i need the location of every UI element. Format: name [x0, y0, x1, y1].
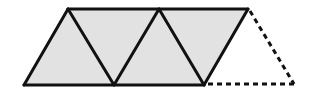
triangle-strip-diagram [0, 0, 311, 103]
dashed-edge-right [250, 11, 294, 84]
